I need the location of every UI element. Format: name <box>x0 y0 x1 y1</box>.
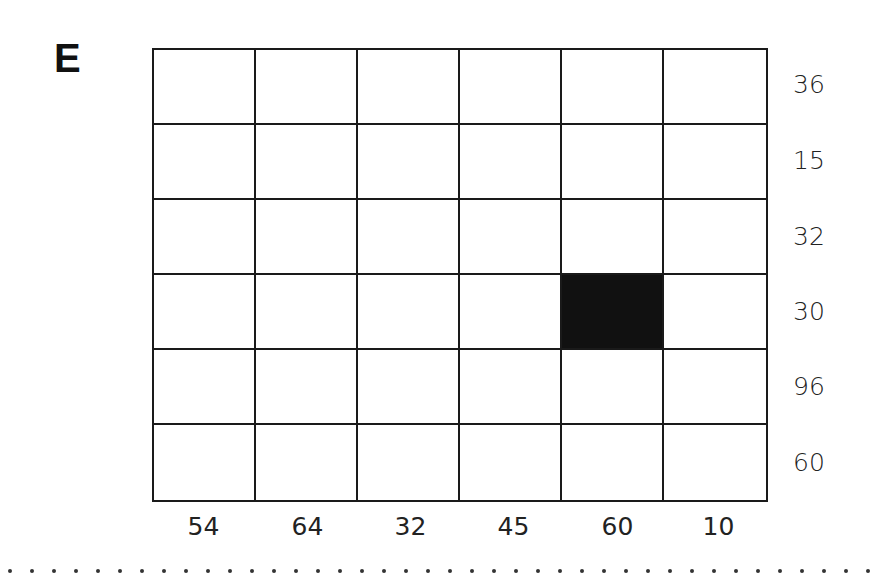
grid-cell-r4-c1[interactable] <box>256 350 358 425</box>
divider-dot <box>250 569 254 573</box>
divider-dot <box>96 569 100 573</box>
grid-cell-r4-c2[interactable] <box>358 350 460 425</box>
grid-cell-r0-c5[interactable] <box>664 50 766 125</box>
divider-dot <box>140 569 144 573</box>
grid-cell-r0-c1[interactable] <box>256 50 358 125</box>
column-clue: 54 <box>152 512 255 542</box>
divider-dot <box>206 569 210 573</box>
column-clue: 45 <box>462 512 565 542</box>
grid-cell-r3-c2[interactable] <box>358 275 460 350</box>
grid-cell-r5-c3[interactable] <box>460 425 562 500</box>
divider-dot <box>778 569 782 573</box>
divider-dot <box>294 569 298 573</box>
grid-cell-r5-c4[interactable] <box>562 425 664 500</box>
row-clue: 60 <box>793 448 843 478</box>
divider-dot <box>536 569 540 573</box>
divider-dot <box>184 569 188 573</box>
puzzle-label: E <box>54 38 81 78</box>
row-clue: 15 <box>793 146 843 176</box>
grid-cell-r5-c1[interactable] <box>256 425 358 500</box>
divider-dot <box>624 569 628 573</box>
grid-cell-r4-c4[interactable] <box>562 350 664 425</box>
divider-dot <box>800 569 804 573</box>
grid-cell-r2-c3[interactable] <box>460 200 562 275</box>
divider-dot <box>844 569 848 573</box>
grid-cell-r1-c3[interactable] <box>460 125 562 200</box>
grid-cell-r5-c5[interactable] <box>664 425 766 500</box>
dotted-divider <box>0 566 886 576</box>
grid-cell-r2-c0[interactable] <box>154 200 256 275</box>
divider-dot <box>360 569 364 573</box>
divider-dot <box>162 569 166 573</box>
grid-cell-r2-c5[interactable] <box>664 200 766 275</box>
row-clue: 30 <box>793 297 843 327</box>
grid-cell-r0-c3[interactable] <box>460 50 562 125</box>
divider-dot <box>52 569 56 573</box>
divider-dot <box>118 569 122 573</box>
divider-dot <box>558 569 562 573</box>
grid-cell-r4-c3[interactable] <box>460 350 562 425</box>
divider-dot <box>514 569 518 573</box>
divider-dot <box>8 569 12 573</box>
divider-dot <box>756 569 760 573</box>
grid-cell-r2-c2[interactable] <box>358 200 460 275</box>
divider-dot <box>734 569 738 573</box>
grid-cell-r2-c1[interactable] <box>256 200 358 275</box>
column-clue: 60 <box>566 512 669 542</box>
column-clue: 32 <box>359 512 462 542</box>
grid-cell-r3-c3[interactable] <box>460 275 562 350</box>
divider-dot <box>580 569 584 573</box>
divider-dot <box>602 569 606 573</box>
divider-dot <box>492 569 496 573</box>
divider-dot <box>74 569 78 573</box>
column-clue: 10 <box>667 512 770 542</box>
grid-cell-r2-c4[interactable] <box>562 200 664 275</box>
grid-cell-r0-c0[interactable] <box>154 50 256 125</box>
grid-cell-r1-c0[interactable] <box>154 125 256 200</box>
divider-dot <box>316 569 320 573</box>
divider-dot <box>470 569 474 573</box>
divider-dot <box>382 569 386 573</box>
divider-dot <box>822 569 826 573</box>
grid-cell-r0-c2[interactable] <box>358 50 460 125</box>
grid-cell-r5-c2[interactable] <box>358 425 460 500</box>
grid-cell-r1-c2[interactable] <box>358 125 460 200</box>
divider-dot <box>646 569 650 573</box>
puzzle-grid <box>152 48 768 502</box>
divider-dot <box>404 569 408 573</box>
divider-dot <box>690 569 694 573</box>
divider-dot <box>426 569 430 573</box>
grid-cell-r3-c4[interactable] <box>562 275 664 350</box>
divider-dot <box>228 569 232 573</box>
row-clue: 32 <box>793 222 843 252</box>
grid-cell-r0-c4[interactable] <box>562 50 664 125</box>
row-clue: 36 <box>793 70 843 100</box>
row-clue: 96 <box>793 372 843 402</box>
grid-cell-r5-c0[interactable] <box>154 425 256 500</box>
column-clue: 64 <box>256 512 359 542</box>
grid-cell-r1-c4[interactable] <box>562 125 664 200</box>
grid-cell-r3-c5[interactable] <box>664 275 766 350</box>
divider-dot <box>272 569 276 573</box>
grid-cell-r4-c0[interactable] <box>154 350 256 425</box>
divider-dot <box>338 569 342 573</box>
grid-cell-r4-c5[interactable] <box>664 350 766 425</box>
divider-dot <box>668 569 672 573</box>
grid-cell-r3-c0[interactable] <box>154 275 256 350</box>
grid-cell-r3-c1[interactable] <box>256 275 358 350</box>
divider-dot <box>448 569 452 573</box>
divider-dot <box>866 569 870 573</box>
grid-cell-r1-c5[interactable] <box>664 125 766 200</box>
divider-dot <box>30 569 34 573</box>
divider-dot <box>712 569 716 573</box>
grid-cell-r1-c1[interactable] <box>256 125 358 200</box>
